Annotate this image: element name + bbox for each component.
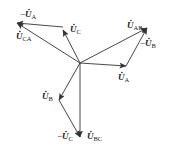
phasor-dot-icon xyxy=(130,20,132,22)
phasor-ua xyxy=(80,63,126,66)
phasor-dot-icon xyxy=(148,38,150,40)
phasor-dot-icon xyxy=(121,72,123,74)
phasor-diagram: UAUCUB−UAUCA−UBUAB−UCUBC xyxy=(0,0,172,148)
phasor-label-uc: UC xyxy=(70,24,81,35)
phasor-ub xyxy=(59,63,80,100)
phasor-label-ub: UB xyxy=(42,91,54,102)
phasor-dot-icon xyxy=(45,91,47,93)
phasor-label-negub: −UB xyxy=(140,38,157,49)
phasor-dot-icon xyxy=(90,131,92,133)
phasor-negua xyxy=(17,23,63,27)
phasor-label-uca: UCA xyxy=(16,31,32,42)
phasor-label-neguc: −UC xyxy=(57,131,73,142)
phasor-label-uab: UAB xyxy=(127,20,143,31)
phasor-dot-icon xyxy=(28,9,30,11)
phasor-dot-icon xyxy=(65,131,67,133)
phasor-label-negua: −UA xyxy=(20,9,37,20)
phasor-label-ua: UA xyxy=(118,72,130,83)
phasor-dot-icon xyxy=(19,31,21,33)
phasor-label-ubc: UBC xyxy=(87,131,102,142)
phasor-dot-icon xyxy=(73,24,75,26)
